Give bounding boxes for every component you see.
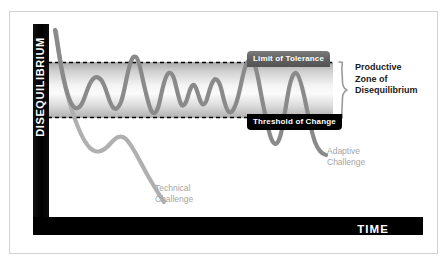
technical-challenge-label: Technical Challenge — [155, 183, 193, 204]
technical-challenge-label-line-1: Technical — [155, 183, 193, 194]
threshold-of-change-label: Threshold of Change — [247, 114, 342, 130]
adaptive-challenge-label-line-1: Adaptive — [327, 146, 365, 157]
adaptive-challenge-label: Adaptive Challenge — [327, 146, 365, 167]
x-axis-label: TIME — [357, 222, 389, 236]
productive-zone-line-2: Zone of — [355, 74, 439, 86]
adaptive-challenge-label-line-2: Challenge — [327, 157, 365, 168]
productive-zone-annotation: Productive Zone of Disequilibrium — [355, 62, 439, 97]
productive-zone-line-1: Productive — [355, 62, 439, 74]
productive-zone-line-3: Disequilibrium — [355, 85, 439, 97]
diagram-stage: DISEQUILIBRIUM TIME Limit of Tolerance T… — [0, 0, 447, 264]
figure-root: DISEQUILIBRIUM TIME Limit of Tolerance T… — [0, 0, 447, 264]
limit-of-tolerance-label: Limit of Tolerance — [247, 51, 330, 67]
technical-challenge-label-line-2: Challenge — [155, 194, 193, 205]
productive-zone-brace — [339, 62, 347, 118]
y-axis-label: DISEQUILIBRIUM — [33, 28, 48, 146]
